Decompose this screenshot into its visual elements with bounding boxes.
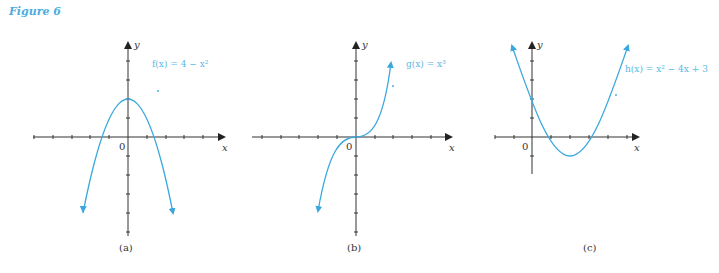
origin-label: 0 (346, 141, 352, 152)
y-axis-label: y (361, 39, 368, 50)
y-axis-label: y (133, 39, 140, 50)
panel-label-c: (c) (583, 242, 597, 253)
x-axis (495, 135, 638, 139)
panel-label-a: (a) (119, 242, 133, 253)
origin-label: 0 (119, 141, 125, 152)
function-label-g: g(x) = x³ (406, 59, 446, 69)
origin-label: 0 (522, 141, 528, 152)
figure-canvas: y x 0 f(x) = 4 − x² (a) (0, 0, 719, 273)
curve-g (356, 63, 391, 137)
function-label-h: h(x) = x² − 4x + 3 (625, 64, 708, 74)
y-axis (126, 43, 130, 236)
panel-c: y x 0 h(x) = x² − 4x + 3 (c) (495, 39, 708, 253)
x-axis-label: x (222, 142, 228, 153)
y-axis (354, 43, 358, 236)
y-axis-label: y (536, 39, 543, 50)
panel-b: y x 0 g(x) = x³ (b) (252, 39, 455, 253)
panel-a: y x 0 f(x) = 4 − x² (a) (33, 39, 228, 253)
x-axis-label: x (449, 142, 455, 153)
y-axis (530, 43, 534, 174)
function-label-f: f(x) = 4 − x² (152, 59, 209, 69)
panel-label-b: (b) (347, 242, 361, 253)
x-axis-label: x (634, 142, 640, 153)
curve-h (512, 46, 570, 156)
